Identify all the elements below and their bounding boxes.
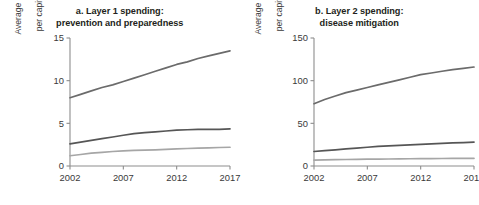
panel-b-series-lower-income — [314, 158, 474, 160]
panel-a-svg: 0510152002200720122017 — [34, 30, 234, 190]
panel-a-y-tick-label: 0 — [59, 160, 64, 171]
panel-b-plot-area: 0501001502002200720122017 — [278, 30, 478, 190]
panel-b-x-tick-label: 2007 — [356, 172, 377, 183]
panel-b-y-tick-label: 0 — [302, 160, 307, 171]
panel-a-y-tick-label: 5 — [59, 118, 64, 129]
panel-a-x-tick-label: 2012 — [166, 172, 187, 183]
panel-b-series-high-income — [314, 67, 474, 104]
panel-b-y-tick-label: 150 — [292, 32, 308, 43]
panel-a-series-upper-middle-income — [70, 129, 230, 144]
panel-b-y-axis-label-line1: Average spending — [252, 0, 263, 64]
panel-b-y-tick-label: 50 — [297, 118, 307, 129]
panel-a-x-tick-label: 2017 — [220, 172, 241, 183]
panel-a-y-axis-label: Average spending per capita (US$) — [2, 0, 28, 64]
panel-b-y-tick-label: 100 — [292, 75, 308, 86]
panel-a-y-tick-label: 10 — [54, 75, 64, 86]
panel-b-y-axis-label: Average spending per capita (US$) — [242, 0, 268, 64]
panel-a-plot-area: 0510152002200720122017 — [34, 30, 234, 190]
panel-a-x-tick-label: 2007 — [113, 172, 134, 183]
panel-b-series-upper-middle-income — [314, 142, 474, 151]
panel-a-x-tick-label: 2002 — [60, 172, 81, 183]
panel-a: a. Layer 1 spending: prevention and prep… — [0, 0, 240, 205]
panel-b-svg: 0501001502002200720122017 — [278, 30, 478, 190]
panel-b-x-tick-label: 2017 — [463, 172, 479, 183]
panel-a-series-high-income — [70, 51, 230, 98]
panel-b-x-tick-label: 2012 — [410, 172, 431, 183]
panel-a-y-axis-label-line1: Average spending — [13, 0, 24, 64]
panel-a-y-tick-label: 15 — [54, 32, 64, 43]
figure-two-panel-line-charts: a. Layer 1 spending: prevention and prep… — [0, 0, 479, 205]
panel-b: b. Layer 2 spending: disease mitigation … — [240, 0, 479, 205]
panel-a-series-lower-income — [70, 147, 230, 156]
panel-b-x-tick-label: 2002 — [303, 172, 324, 183]
